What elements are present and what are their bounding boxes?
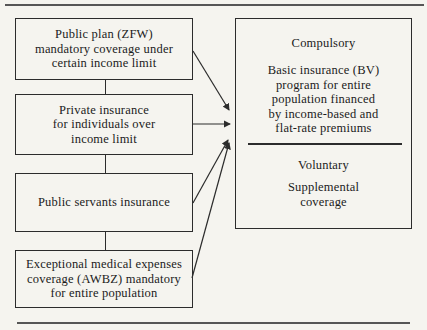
arrow-awbz-to-basic <box>192 143 229 278</box>
voluntary-description: Supplemental coverage <box>236 180 411 209</box>
box-private-insurance: Private insurance for individuals over i… <box>15 94 193 155</box>
box-public-servants: Public servants insurance <box>15 173 193 232</box>
arrow-zfw-to-basic <box>193 51 229 110</box>
connector-box3-box4 <box>105 231 107 251</box>
top-rule <box>5 4 424 6</box>
box-public-servants-label: Public servants insurance <box>38 195 170 210</box>
box-awbz: Exceptional medical expenses coverage (A… <box>15 250 193 308</box>
compulsory-voluntary-divider <box>248 143 402 145</box>
box-private-insurance-label: Private insurance for individuals over i… <box>53 103 156 147</box>
box-awbz-label: Exceptional medical expenses coverage (A… <box>26 257 182 301</box>
connector-box2-box3 <box>105 154 107 174</box>
arrow-servants-to-basic <box>193 140 228 203</box>
box-basic-insurance: Compulsory Basic insurance (BV) program … <box>235 18 412 229</box>
compulsory-heading: Compulsory <box>236 36 411 51</box>
insurance-flow-diagram: Public plan (ZFW) mandatory coverage und… <box>0 0 427 330</box>
bottom-rule <box>17 322 410 324</box>
connector-box1-box2 <box>105 79 107 95</box>
compulsory-description: Basic insurance (BV) program for entire … <box>236 63 411 136</box>
box-public-plan-zfw: Public plan (ZFW) mandatory coverage und… <box>15 18 193 80</box>
voluntary-heading: Voluntary <box>236 158 411 173</box>
box-public-plan-zfw-label: Public plan (ZFW) mandatory coverage und… <box>35 27 173 71</box>
